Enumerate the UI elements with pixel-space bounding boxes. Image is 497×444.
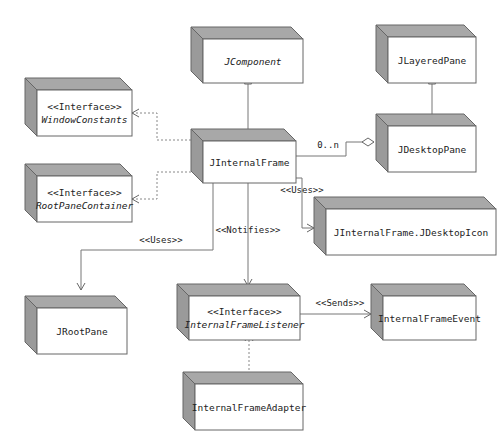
edge-realization-jinternalframe-to-rootpanecontainer — [132, 172, 191, 203]
node-class-name: JComponent — [223, 56, 281, 67]
node-front-face — [37, 90, 132, 136]
class-node-jinternalframe[interactable]: JInternalFrame — [191, 129, 296, 183]
class-node-internalframelistener[interactable]: <<Interface>>InternalFrameListener — [177, 284, 305, 340]
node-class-name: WindowConstants — [42, 114, 128, 125]
class-node-jlayeredpane[interactable]: JLayeredPane — [376, 25, 476, 83]
node-top-face — [376, 114, 476, 126]
class-node-internalframeadapter[interactable]: InternalFrameAdapter — [183, 372, 306, 430]
node-top-face — [376, 25, 476, 37]
node-class-name: JRootPane — [56, 326, 108, 337]
uml-class-diagram: JComponentJLayeredPane<<Interface>>Windo… — [0, 0, 497, 444]
node-top-face — [183, 372, 303, 384]
edge-label: 0..n — [317, 140, 339, 150]
node-top-face — [191, 27, 303, 39]
node-top-face — [371, 284, 476, 296]
edge-realization-jinternalframe-to-windowconstants — [132, 109, 191, 140]
node-class-name: InternalFrameAdapter — [192, 402, 307, 413]
node-class-name: RootPaneContainer — [36, 200, 134, 211]
node-class-name: InternalFrameListener — [184, 319, 304, 330]
aggregation-diamond-icon — [362, 138, 374, 146]
class-node-internalframeevent[interactable]: InternalFrameEvent — [371, 284, 481, 340]
node-top-face — [25, 78, 132, 90]
node-top-face — [177, 284, 300, 296]
class-node-jcomponent[interactable]: JComponent — [191, 27, 303, 83]
edge-label: <<Notifies>> — [215, 225, 281, 235]
edge-label: <<Uses>> — [139, 235, 183, 245]
edge-label: <<Sends>> — [316, 298, 365, 308]
class-node-jrootpane[interactable]: JRootPane — [25, 296, 127, 354]
class-node-jdesktoppane[interactable]: JDesktopPane — [376, 114, 476, 172]
node-class-name: InternalFrameEvent — [378, 313, 481, 324]
edge-line — [132, 113, 191, 140]
node-class-name: JInternalFrame — [209, 157, 289, 168]
node-front-face — [37, 176, 132, 222]
node-class-name: JLayeredPane — [398, 55, 467, 66]
class-node-rootpanecontainer[interactable]: <<Interface>>RootPaneContainer — [25, 164, 133, 222]
node-class-name: JInternalFrame.JDesktopIcon — [334, 227, 488, 238]
edge-line — [132, 172, 191, 199]
node-front-face — [189, 296, 300, 340]
node-top-face — [191, 129, 296, 141]
edge-generalization-jinternalframe-to-jcomponent — [245, 77, 252, 135]
node-top-face — [25, 296, 127, 308]
class-node-windowconstants[interactable]: <<Interface>>WindowConstants — [25, 78, 132, 136]
node-stereotype: <<Interface>> — [47, 187, 122, 198]
node-top-face — [314, 197, 496, 209]
edge-dependency-internalframelistener-to-internalframeevent — [300, 310, 371, 318]
edge-label: <<Uses>> — [280, 185, 324, 195]
node-class-name: JDesktopPane — [398, 144, 467, 155]
node-top-face — [25, 164, 132, 176]
node-stereotype: <<Interface>> — [47, 101, 122, 112]
class-node-jdesktopicon[interactable]: JInternalFrame.JDesktopIcon — [314, 197, 496, 255]
node-stereotype: <<Interface>> — [207, 306, 282, 317]
